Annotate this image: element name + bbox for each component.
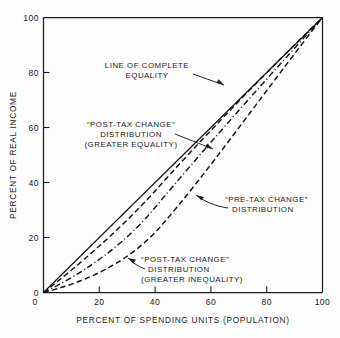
annotation-post-ineq-arrowhead	[128, 258, 136, 263]
x-tick-label-80: 80	[261, 297, 271, 307]
x-tick-label-20: 20	[94, 297, 104, 307]
y-axis-title: PERCENT OF REAL INCOME	[8, 91, 18, 219]
y-tick-labels: 100 80 60 40 20 0	[23, 13, 39, 298]
annotation-post-ineq-line-2: DISTRIBUTION	[148, 265, 210, 274]
annotation-pre-tax-change: “PRE-TAX CHANGE” DISTRIBUTION	[196, 195, 308, 214]
y-tick-label-60: 60	[29, 123, 39, 133]
x-tick-label-100: 100	[315, 297, 331, 307]
y-tick-label-80: 80	[29, 68, 39, 78]
annotation-equality-line-2: EQUALITY	[125, 71, 168, 80]
x-axis-title: PERCENT OF SPENDING UNITS (POPULATION)	[76, 315, 289, 325]
annotation-post-ineq-line-3: (GREATER INEQUALITY)	[141, 275, 243, 284]
x-tick-label-40: 40	[150, 297, 160, 307]
y-tick-label-40: 40	[29, 178, 39, 188]
x-tick-label-60: 60	[206, 297, 216, 307]
annotation-post-eq-line-2: DISTRIBUTION	[100, 130, 162, 139]
annotation-equality-line-1: LINE OF COMPLETE	[105, 61, 189, 70]
annotation-post-eq-line-3: (GREATER EQUALITY)	[84, 140, 177, 149]
x-tick-label-0: 0	[32, 297, 37, 307]
annotation-line-of-complete-equality: LINE OF COMPLETE EQUALITY	[105, 61, 224, 85]
annotation-post-eq-line-1: “POST-TAX CHANGE”	[87, 120, 175, 129]
annotation-pre-tax-line-2: DISTRIBUTION	[232, 205, 294, 214]
x-ticks	[99, 287, 266, 293]
y-ticks	[44, 18, 50, 238]
annotation-post-ineq-line-1: “POST-TAX CHANGE”	[141, 255, 229, 264]
annotation-post-tax-greater-inequality: “POST-TAX CHANGE” DISTRIBUTION (GREATER …	[128, 255, 243, 284]
annotation-pre-tax-line-1: “PRE-TAX CHANGE”	[225, 195, 308, 204]
y-tick-label-20: 20	[29, 233, 39, 243]
y-tick-label-100: 100	[23, 13, 39, 23]
x-tick-labels: 0 20 40 60 80 100	[32, 297, 330, 307]
lorenz-curve-figure: 100 80 60 40 20 0 0 20 40 60 80 100 PERC…	[0, 0, 340, 338]
chart-svg: 100 80 60 40 20 0 0 20 40 60 80 100 PERC…	[0, 0, 340, 338]
